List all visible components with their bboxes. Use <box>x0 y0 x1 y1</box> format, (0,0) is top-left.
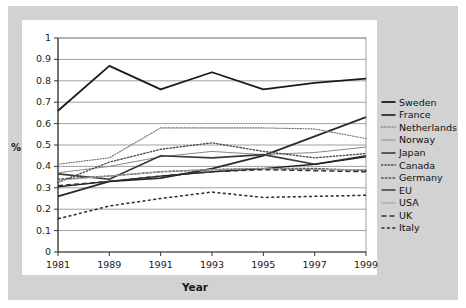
legend-swatch-germany <box>381 173 396 183</box>
y-tick-label: 0.1 <box>22 226 51 236</box>
x-tick-label: 1995 <box>243 260 283 270</box>
legend-label: Italy <box>399 223 420 233</box>
series-line-netherlands <box>58 128 366 164</box>
legend-item-norway[interactable]: Norway <box>381 134 461 147</box>
y-tick-label: 0.3 <box>22 183 51 193</box>
y-tick-label: 0.4 <box>22 161 51 171</box>
y-tick-label: 0 <box>22 247 51 257</box>
legend-item-eu[interactable]: EU <box>381 184 461 197</box>
y-tick-label: 0.7 <box>22 97 51 107</box>
legend-item-germany[interactable]: Germany <box>381 172 461 185</box>
x-axis-label: Year <box>0 281 390 293</box>
legend-swatch-france <box>381 110 396 120</box>
legend-item-netherlands[interactable]: Netherlands <box>381 121 461 134</box>
legend-label: Sweden <box>399 98 437 108</box>
series-line-italy <box>58 192 366 219</box>
y-axis-label: % <box>11 142 21 153</box>
y-tick-label: 0.5 <box>22 140 51 150</box>
legend-swatch-usa <box>381 198 396 208</box>
legend-label: Germany <box>399 173 443 183</box>
chart-figure: 00.10.20.30.40.50.60.70.80.91 1981198919… <box>0 0 466 308</box>
data-series-group <box>58 66 366 219</box>
chart-card: 00.10.20.30.40.50.60.70.80.91 1981198919… <box>22 20 377 275</box>
legend-swatch-canada <box>381 160 396 170</box>
chart-legend: SwedenFranceNetherlandsNorwayJapanCanada… <box>381 96 461 235</box>
series-line-sweden <box>58 66 366 111</box>
legend-swatch-eu <box>381 185 396 195</box>
legend-swatch-sweden <box>381 97 396 107</box>
x-tick-label: 1981 <box>38 260 78 270</box>
x-tick-label: 1989 <box>89 260 129 270</box>
legend-item-usa[interactable]: USA <box>381 197 461 210</box>
x-axis-ticks <box>58 252 366 256</box>
x-tick-label: 1997 <box>295 260 335 270</box>
legend-item-france[interactable]: France <box>381 109 461 122</box>
legend-label: UK <box>399 211 412 221</box>
legend-label: Netherlands <box>399 123 457 133</box>
legend-swatch-norway <box>381 135 396 145</box>
legend-item-uk[interactable]: UK <box>381 209 461 222</box>
legend-item-sweden[interactable]: Sweden <box>381 96 461 109</box>
legend-label: Canada <box>399 161 435 171</box>
x-tick-label: 1993 <box>192 260 232 270</box>
y-tick-label: 0.6 <box>22 119 51 129</box>
legend-label: France <box>399 110 431 120</box>
line-chart-plot <box>22 20 377 275</box>
legend-item-italy[interactable]: Italy <box>381 222 461 235</box>
x-tick-label: 1991 <box>141 260 181 270</box>
legend-swatch-uk <box>381 211 396 221</box>
legend-label: Norway <box>399 135 435 145</box>
legend-label: EU <box>399 186 412 196</box>
y-tick-label: 0.9 <box>22 54 51 64</box>
y-tick-label: 0.2 <box>22 204 51 214</box>
legend-label: Japan <box>399 148 426 158</box>
legend-swatch-japan <box>381 148 396 158</box>
legend-item-japan[interactable]: Japan <box>381 146 461 159</box>
series-line-germany <box>58 169 366 180</box>
legend-swatch-netherlands <box>381 122 396 132</box>
y-tick-label: 0.8 <box>22 76 51 86</box>
x-tick-label: 1999 <box>346 260 386 270</box>
legend-swatch-italy <box>381 223 396 233</box>
y-tick-label: 1 <box>22 33 51 43</box>
legend-item-canada[interactable]: Canada <box>381 159 461 172</box>
legend-label: USA <box>399 198 419 208</box>
